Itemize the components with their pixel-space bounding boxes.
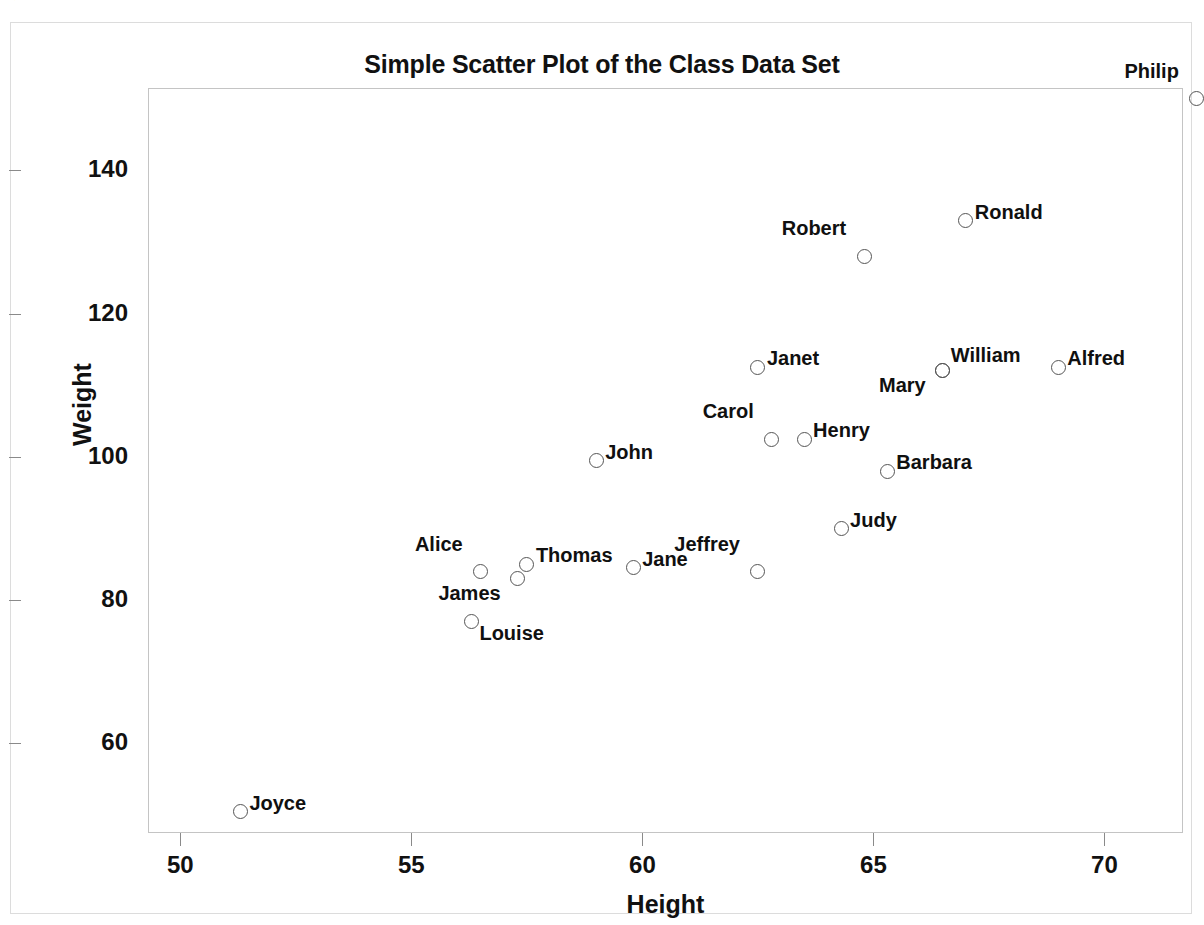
data-point-label: Jeffrey: [674, 534, 740, 554]
y-axis-tick: [9, 743, 21, 744]
data-point-label: Philip: [1124, 61, 1178, 81]
x-axis-tick-label: 70: [1064, 851, 1144, 879]
data-point-label: Alfred: [1067, 348, 1125, 368]
y-axis-tick-label: 80: [38, 585, 128, 613]
data-point-label: William: [951, 345, 1021, 365]
data-point-marker[interactable]: [797, 432, 812, 447]
y-axis-tick: [9, 600, 21, 601]
y-axis-tick: [9, 314, 21, 315]
x-axis-tick: [873, 833, 874, 846]
data-point-marker[interactable]: [764, 432, 779, 447]
data-point-marker[interactable]: [834, 521, 849, 536]
y-axis-tick: [9, 457, 21, 458]
data-point-label: Thomas: [536, 545, 613, 565]
data-point-label: Robert: [782, 218, 846, 238]
x-axis-tick: [411, 833, 412, 846]
data-point-marker[interactable]: [233, 804, 248, 819]
x-axis-tick-label: 55: [371, 851, 451, 879]
data-point-label: Henry: [813, 420, 870, 440]
x-axis-tick-label: 65: [833, 851, 913, 879]
data-point-marker[interactable]: [1189, 91, 1204, 106]
data-point-marker[interactable]: [1051, 360, 1066, 375]
data-point-label: Louise: [479, 623, 543, 643]
data-point-marker[interactable]: [589, 453, 604, 468]
data-point-marker[interactable]: [857, 249, 872, 264]
x-axis-label: Height: [148, 890, 1183, 919]
data-point-label: John: [605, 442, 653, 462]
x-axis-tick: [1104, 833, 1105, 846]
data-point-label: Mary: [879, 375, 926, 395]
screenshot-page: ▼ Simple Scatter Plot of the Class Data …: [0, 0, 1204, 925]
x-axis-tick: [180, 833, 181, 846]
x-axis-tick-label: 50: [140, 851, 220, 879]
x-axis-tick-label: 60: [602, 851, 682, 879]
data-point-marker[interactable]: [880, 464, 895, 479]
data-point-label: James: [438, 583, 500, 603]
y-axis-tick-label: 100: [38, 442, 128, 470]
y-axis-tick-label: 120: [38, 299, 128, 327]
x-axis-tick: [642, 833, 643, 846]
data-point-label: Joyce: [249, 793, 306, 813]
data-point-label: Ronald: [975, 202, 1043, 222]
scan-top-edge-strip: ▼: [0, 0, 1204, 20]
data-point-label: Janet: [767, 348, 819, 368]
data-point-label: Carol: [703, 401, 754, 421]
y-axis-tick-label: 60: [38, 728, 128, 756]
page-title: Simple Scatter Plot of the Class Data Se…: [0, 50, 1204, 79]
data-point-label: Alice: [415, 534, 463, 554]
y-axis-tick-label: 140: [38, 155, 128, 183]
data-point-label: Barbara: [896, 452, 972, 472]
data-point-label: Judy: [850, 510, 897, 530]
y-axis-tick: [9, 170, 21, 171]
